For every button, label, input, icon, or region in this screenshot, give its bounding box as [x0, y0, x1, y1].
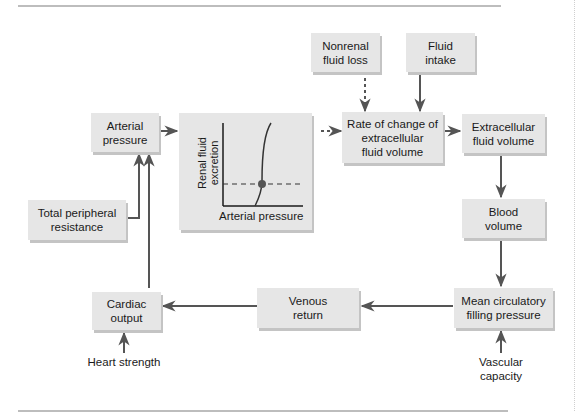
node-cardiac-output: Cardiac output — [92, 292, 161, 330]
node-rate-of-change: Rate of change of extracellular fluid vo… — [342, 112, 443, 163]
node-label: Nonrenal fluid loss — [322, 39, 369, 67]
node-label: Arterial pressure — [103, 119, 148, 147]
node-venous-return: Venous return — [257, 288, 359, 328]
node-label: Venous return — [289, 294, 327, 322]
label-heart-strength: Heart strength — [78, 355, 170, 369]
node-label: Blood volume — [485, 205, 522, 233]
node-fluid-intake: Fluid intake — [406, 33, 475, 72]
node-label: Extracellular fluid volume — [472, 120, 535, 148]
label-vascular-capacity: Vascular capacity — [466, 355, 536, 383]
node-mean-circulatory-filling-pressure: Mean circulatory filling pressure — [454, 288, 553, 328]
node-label: Fluid intake — [425, 39, 456, 67]
node-extracellular-fluid-volume: Extracellular fluid volume — [462, 114, 545, 153]
node-blood-volume: Blood volume — [462, 199, 545, 238]
graph-ylabel: Renal fluid excretion — [196, 128, 220, 198]
inset-graph-panel: Renal fluid excretion Arterial pressure — [179, 113, 312, 230]
graph-xlabel: Arterial pressure — [219, 209, 303, 223]
node-label: Total peripheral resistance — [38, 206, 117, 234]
node-arterial-pressure: Arterial pressure — [91, 113, 159, 152]
node-nonrenal-fluid-loss: Nonrenal fluid loss — [311, 33, 380, 72]
node-label: Rate of change of extracellular fluid vo… — [347, 117, 438, 159]
node-total-peripheral-resistance: Total peripheral resistance — [28, 200, 126, 240]
node-label: Cardiac output — [107, 297, 147, 325]
node-label: Mean circulatory filling pressure — [461, 294, 545, 322]
